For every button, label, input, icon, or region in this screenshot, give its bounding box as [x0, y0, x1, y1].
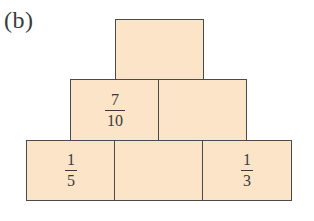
fraction-bar: [105, 110, 125, 111]
fraction-numerator: 1: [241, 152, 253, 169]
fraction-denominator: 5: [65, 173, 77, 189]
fraction-bar: [241, 170, 253, 171]
fraction-bar: [65, 170, 77, 171]
fraction-denominator: 10: [105, 113, 125, 129]
brick-bottom-left: 1 5: [26, 140, 116, 201]
fraction-numerator: 1: [65, 152, 77, 169]
fraction-seven-tenths: 7 10: [105, 92, 125, 129]
brick-bottom-right: 1 3: [202, 140, 292, 201]
brick-middle-right: [158, 79, 247, 142]
brick-bottom-center: [114, 140, 204, 201]
fraction-one-fifth: 1 5: [65, 152, 77, 189]
fraction-denominator: 3: [241, 173, 253, 189]
figure-label: (b): [4, 8, 33, 32]
brick-top-center: [115, 19, 204, 81]
fraction-one-third: 1 3: [241, 152, 253, 189]
brick-middle-left: 7 10: [70, 79, 160, 142]
fraction-numerator: 7: [109, 92, 121, 109]
